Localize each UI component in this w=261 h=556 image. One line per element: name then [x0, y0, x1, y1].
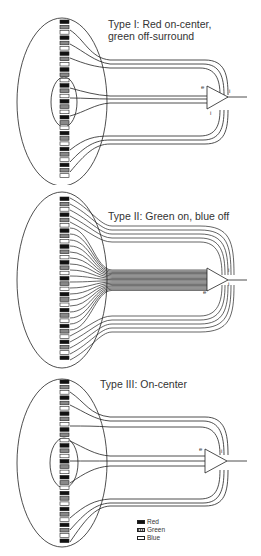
title-line-1: Type III: On-center	[100, 378, 187, 390]
excitatory-label: e	[201, 84, 204, 90]
green-swatch-icon	[137, 528, 145, 532]
title-line-1: Type I: Red on-center,	[108, 18, 211, 30]
type-3-diagram	[0, 370, 261, 556]
panel-type-1: Type I: Red on-center, green off-surroun…	[0, 0, 261, 185]
title-line-2: green off-surround	[108, 30, 211, 42]
excitatory-label: e	[203, 289, 206, 295]
blue-swatch-icon	[137, 536, 145, 540]
excitatory-label: e	[199, 446, 202, 452]
title-line-1: Type II: Green on, blue off	[108, 210, 229, 222]
inhibitory-label-top: i	[228, 267, 229, 273]
color-legend: Red Green Blue	[137, 518, 165, 542]
legend-item-blue: Blue	[137, 534, 165, 542]
neuron-triangle	[207, 86, 228, 109]
legend-item-green: Green	[137, 526, 165, 534]
inhibitory-label-top: i	[221, 448, 222, 454]
type-3-title: Type III: On-center	[100, 378, 187, 390]
type-2-diagram	[0, 180, 261, 370]
legend-label: Blue	[147, 534, 160, 542]
legend-label: Green	[147, 526, 165, 534]
type-1-title: Type I: Red on-center, green off-surroun…	[108, 18, 211, 42]
legend-item-red: Red	[137, 518, 165, 526]
legend-label: Red	[147, 518, 159, 526]
red-swatch-icon	[137, 520, 145, 524]
panel-type-3: Type III: On-center e i	[0, 370, 261, 556]
type-2-title: Type II: Green on, blue off	[108, 210, 229, 222]
panel-type-2: Type II: Green on, blue off i i e	[0, 180, 261, 370]
inhibitory-label-bottom: i	[228, 281, 229, 287]
inhibitory-label-top: i	[229, 88, 230, 94]
inhibitory-label-bottom: i	[210, 110, 211, 116]
